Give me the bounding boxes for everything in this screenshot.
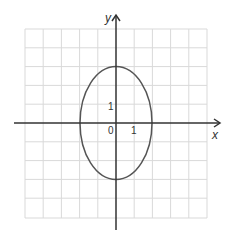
x-tick-one-label: 1 [131, 125, 137, 136]
y-tick-one-label: 1 [108, 101, 114, 112]
ellipse-diagram: y x 0 1 1 [0, 0, 230, 239]
y-axis-label: y [104, 11, 112, 25]
origin-label: 0 [108, 125, 114, 136]
x-axis-label: x [211, 128, 219, 142]
